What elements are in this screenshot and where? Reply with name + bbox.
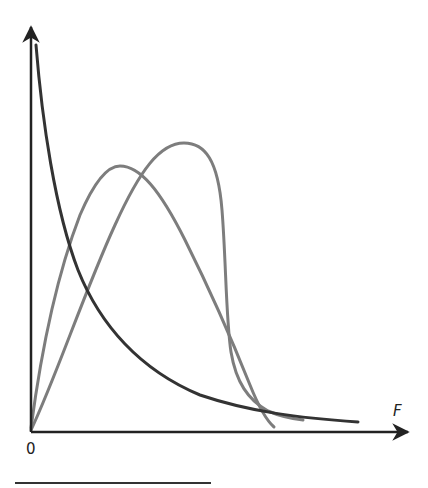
series-gray-early-peak: [31, 166, 274, 428]
series-dark-decay: [36, 45, 358, 422]
series-gray-late-peak: [31, 143, 303, 430]
chart-canvas: [0, 0, 428, 488]
x-axis-label: F: [393, 402, 402, 420]
origin-label: 0: [26, 440, 36, 458]
divider-line: [15, 482, 211, 484]
